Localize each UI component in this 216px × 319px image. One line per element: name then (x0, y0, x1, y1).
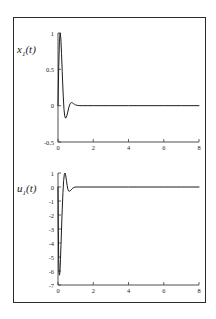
x-ticks-lower (58, 282, 199, 285)
x-tick-label-lower-6: 6 (162, 287, 165, 294)
x-tick-label-upper-6: 6 (162, 144, 165, 151)
plot-panel-u1: u1(t) 1 0 -1 -2 -3 (14, 161, 207, 304)
plot-panel-x1: x1(t) 1 0.5 0 -0.5 (14, 18, 207, 161)
x-tick-label-lower-4: 4 (127, 287, 131, 294)
y-tick-label-lower-neg4: -4 (49, 240, 55, 247)
x-tick-label-lower-0: 0 (56, 287, 59, 294)
y-tick-label-lower-1: 1 (51, 170, 54, 177)
x-tick-label-upper-8: 8 (197, 144, 200, 151)
y-tick-label-lower-neg2: -2 (49, 212, 54, 219)
y-tick-label-lower-neg6: -6 (49, 268, 54, 275)
x-tick-label-lower-2: 2 (92, 287, 95, 294)
x-tick-label-upper-2: 2 (92, 144, 95, 151)
y-tick-label-lower-neg1: -1 (49, 198, 54, 205)
plot-canvas-x1: 1 0.5 0 -0.5 0 2 4 6 8 (14, 18, 207, 161)
y-tick-label-upper-neg0.5: -0.5 (44, 139, 54, 146)
y-tick-label-upper-0.5: 0.5 (46, 66, 54, 73)
x-tick-label-upper-0: 0 (56, 144, 59, 151)
x-tick-label-lower-8: 8 (197, 287, 200, 294)
figure-frame: x1(t) 1 0.5 0 -0.5 (13, 17, 206, 303)
plot-canvas-u1: 1 0 -1 -2 -3 -4 -5 -6 -7 0 2 4 6 8 (14, 161, 207, 304)
data-curve-u1 (58, 173, 199, 275)
x-tick-label-upper-4: 4 (127, 144, 131, 151)
data-curve-x1 (58, 33, 199, 118)
y-tick-label-upper-0: 0 (51, 102, 54, 109)
y-tick-label-lower-neg7: -7 (49, 282, 55, 289)
y-tick-label-lower-neg3: -3 (49, 226, 54, 233)
y-tick-label-upper-1: 1 (51, 30, 54, 37)
y-tick-label-lower-0: 0 (51, 184, 54, 191)
y-tick-label-lower-neg5: -5 (49, 254, 54, 261)
